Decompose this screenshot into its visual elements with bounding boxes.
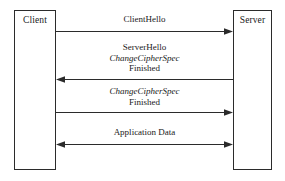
message-text: ChangeCipherSpec bbox=[56, 53, 233, 64]
arrow-client-to-server bbox=[56, 27, 233, 36]
message-text: ServerHello bbox=[56, 42, 233, 53]
sequence-diagram: Client Server ClientHello ServerHello Ch… bbox=[0, 0, 285, 181]
message-text: ChangeCipherSpec bbox=[56, 86, 233, 97]
message-labels-appdata: Application Data bbox=[56, 127, 233, 138]
party-label-client: Client bbox=[15, 15, 55, 26]
message-labels-clienthello: ClientHello bbox=[56, 14, 233, 25]
message-text: Finished bbox=[56, 63, 233, 74]
message-labels-client-ccs: ChangeCipherSpec Finished bbox=[56, 86, 233, 107]
party-label-server: Server bbox=[234, 15, 271, 26]
party-box-client: Client bbox=[14, 10, 56, 170]
message-text: Finished bbox=[56, 97, 233, 108]
party-box-server: Server bbox=[233, 10, 272, 170]
arrow-bidirectional bbox=[56, 140, 233, 149]
message-text: Application Data bbox=[56, 127, 233, 138]
message-text: ClientHello bbox=[56, 14, 233, 25]
arrow-client-to-server bbox=[56, 108, 233, 117]
message-labels-serverhello: ServerHello ChangeCipherSpec Finished bbox=[56, 42, 233, 74]
arrow-server-to-client bbox=[56, 75, 233, 84]
